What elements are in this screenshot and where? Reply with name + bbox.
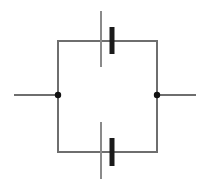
junction-node-right [154, 92, 160, 98]
terminal-right [154, 92, 196, 98]
terminal-left [14, 92, 61, 98]
capacitor-top [101, 11, 112, 67]
circuit-diagram [0, 0, 207, 189]
wire-group-loop [58, 40, 157, 153]
schematic-canvas [0, 0, 207, 189]
junction-node-left [55, 92, 61, 98]
capacitor-bottom [101, 122, 112, 179]
